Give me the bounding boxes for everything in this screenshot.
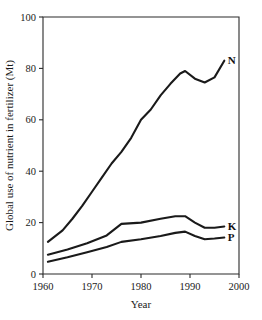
y-tick-label: 80 <box>26 63 37 74</box>
y-axis-ticks: 020406080100 <box>20 12 43 280</box>
x-tick-label: 2000 <box>229 281 250 292</box>
chart-canvas: 020406080100 19601970198019902000 Year G… <box>0 0 262 320</box>
series-lines <box>48 61 224 262</box>
x-tick-label: 1990 <box>180 281 201 292</box>
plot-border <box>43 17 239 274</box>
plot-frame <box>43 17 239 274</box>
x-axis-ticks: 19601970198019902000 <box>33 274 250 292</box>
x-tick-label: 1970 <box>82 281 103 292</box>
y-tick-label: 0 <box>31 269 36 280</box>
series-label-p: P <box>228 231 235 243</box>
series-end-labels: NKP <box>228 54 237 243</box>
series-label-n: N <box>228 54 236 66</box>
x-tick-label: 1960 <box>33 281 54 292</box>
y-tick-label: 40 <box>26 166 37 177</box>
series-line-n <box>48 61 224 242</box>
series-line-k <box>48 216 224 255</box>
fertilizer-nutrient-use-chart: 020406080100 19601970198019902000 Year G… <box>0 0 262 320</box>
x-axis-title: Year <box>131 298 152 310</box>
y-tick-label: 20 <box>26 217 37 228</box>
y-tick-label: 100 <box>20 12 36 23</box>
x-tick-label: 1980 <box>131 281 152 292</box>
y-axis-title: Global use of nutrient in fertilizer (Mt… <box>3 60 16 231</box>
y-tick-label: 60 <box>26 114 37 125</box>
